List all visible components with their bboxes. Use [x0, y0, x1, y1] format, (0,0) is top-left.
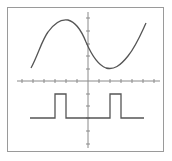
oscilloscope-figure [0, 0, 172, 161]
frame [8, 8, 164, 152]
